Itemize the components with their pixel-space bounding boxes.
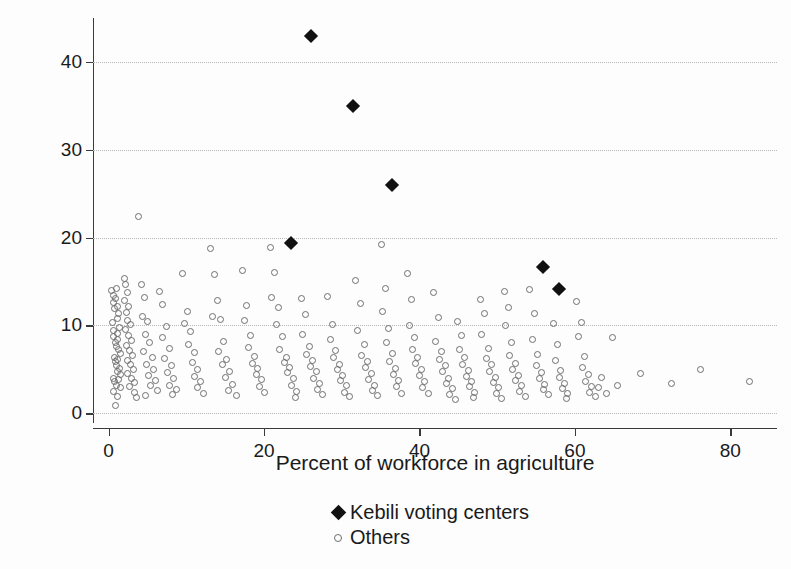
data-point-other <box>166 345 173 352</box>
y-tick-label: 20 <box>61 227 82 249</box>
data-point-other <box>526 286 533 293</box>
data-point-other <box>275 304 282 311</box>
legend-item-kebili: Kebili voting centers <box>326 500 529 525</box>
x-tick-mark <box>264 428 265 436</box>
data-point-other <box>170 375 177 382</box>
data-point-other <box>404 270 411 277</box>
data-point-kebili <box>346 99 360 113</box>
gridline-y <box>93 325 777 327</box>
data-point-other <box>603 390 610 397</box>
data-point-other <box>241 317 248 324</box>
data-point-other <box>161 355 168 362</box>
data-point-other <box>217 316 224 323</box>
data-point-other <box>159 334 166 341</box>
data-point-other <box>425 390 432 397</box>
data-point-other <box>598 374 605 381</box>
data-point-other <box>179 270 186 277</box>
data-point-other <box>226 368 233 375</box>
data-point-other <box>346 393 353 400</box>
data-point-other <box>114 336 121 343</box>
data-point-other <box>409 346 416 353</box>
data-point-other <box>411 334 418 341</box>
data-point-other <box>378 241 385 248</box>
gridline-y <box>93 413 777 415</box>
data-point-other <box>185 341 192 348</box>
data-point-other <box>144 318 151 325</box>
data-point-other <box>386 358 393 365</box>
y-tick-label: 40 <box>61 51 82 73</box>
data-point-other <box>298 295 305 302</box>
data-point-other <box>147 382 154 389</box>
data-point-other <box>117 384 124 391</box>
data-point-other <box>545 391 552 398</box>
data-point-other <box>233 392 240 399</box>
gridline-y <box>93 238 777 240</box>
data-point-other <box>189 359 196 366</box>
data-point-other <box>251 353 258 360</box>
data-point-other <box>585 371 592 378</box>
data-point-other <box>502 322 509 329</box>
data-point-other <box>330 354 337 361</box>
data-point-other <box>299 331 306 338</box>
data-point-kebili <box>552 282 566 296</box>
data-point-other <box>332 347 339 354</box>
data-point-other <box>697 366 704 373</box>
data-point-other <box>159 301 166 308</box>
x-axis-line <box>93 428 777 429</box>
scatter-plot-figure: 010203040 020406080 Percent of workforce… <box>0 0 791 569</box>
data-point-other <box>115 310 122 317</box>
data-point-other <box>393 383 400 390</box>
data-point-other <box>668 380 675 387</box>
data-point-other <box>143 361 150 368</box>
data-point-other <box>592 393 599 400</box>
data-point-other <box>579 364 586 371</box>
x-tick-mark <box>730 428 731 436</box>
data-point-other <box>149 354 156 361</box>
data-point-other <box>412 360 419 367</box>
data-point-other <box>163 323 170 330</box>
data-point-other <box>279 333 286 340</box>
data-point-other <box>529 336 536 343</box>
data-point-other <box>554 341 561 348</box>
data-point-other <box>271 269 278 276</box>
legend-label-kebili: Kebili voting centers <box>350 501 529 524</box>
data-point-kebili <box>304 28 318 42</box>
data-point-other <box>168 362 175 369</box>
data-point-other <box>357 300 364 307</box>
data-point-other <box>292 394 299 401</box>
data-point-other <box>361 341 368 348</box>
data-point-other <box>243 302 250 309</box>
data-point-other <box>209 313 216 320</box>
data-point-other <box>506 352 513 359</box>
data-point-other <box>485 345 492 352</box>
data-point-other <box>324 293 331 300</box>
data-point-other <box>194 366 201 373</box>
data-point-other <box>481 310 488 317</box>
y-tick-mark <box>86 62 93 63</box>
data-point-other <box>245 344 252 351</box>
data-point-other <box>169 391 176 398</box>
data-point-other <box>408 296 415 303</box>
data-point-other <box>432 338 439 345</box>
data-point-other <box>508 339 515 346</box>
gridline-y <box>93 150 777 152</box>
data-point-other <box>505 304 512 311</box>
y-tick-label: 30 <box>61 139 82 161</box>
data-point-other <box>637 370 644 377</box>
data-point-other <box>454 318 461 325</box>
data-point-other <box>214 297 221 304</box>
data-point-other <box>247 332 254 339</box>
data-point-other <box>130 366 137 373</box>
y-tick-mark <box>86 413 93 414</box>
data-point-other <box>142 392 149 399</box>
data-point-other <box>112 295 119 302</box>
y-tick-mark <box>86 325 93 326</box>
data-point-other <box>145 372 152 379</box>
data-point-other <box>379 308 386 315</box>
data-point-other <box>354 327 361 334</box>
data-point-other <box>550 320 557 327</box>
data-point-other <box>362 364 369 371</box>
data-point-other <box>303 351 310 358</box>
data-point-other <box>430 289 437 296</box>
plot-area: 010203040 <box>93 18 777 422</box>
